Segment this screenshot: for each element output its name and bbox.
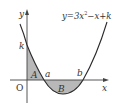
root-b-label: b <box>77 68 83 78</box>
region-a-label: A <box>30 70 38 80</box>
origin-label: O <box>16 83 23 93</box>
y-axis-label: y <box>18 9 25 19</box>
x-axis-label: x <box>102 83 107 93</box>
graph-canvas: y x O k a b A B y=3x2−x+k <box>0 0 129 109</box>
parabola-diagram: y x O k a b A B y=3x2−x+k <box>0 0 129 109</box>
y-axis-arrow-icon <box>25 9 29 15</box>
equation-prefix: y=3x <box>61 11 84 21</box>
y-intercept-label: k <box>19 41 24 51</box>
equation-label: y=3x2−x+k <box>61 10 112 21</box>
region-b-label: B <box>57 84 65 94</box>
x-axis-arrow-icon <box>103 78 109 82</box>
root-a-label: a <box>45 69 50 79</box>
equation-suffix: −x+k <box>87 11 111 21</box>
